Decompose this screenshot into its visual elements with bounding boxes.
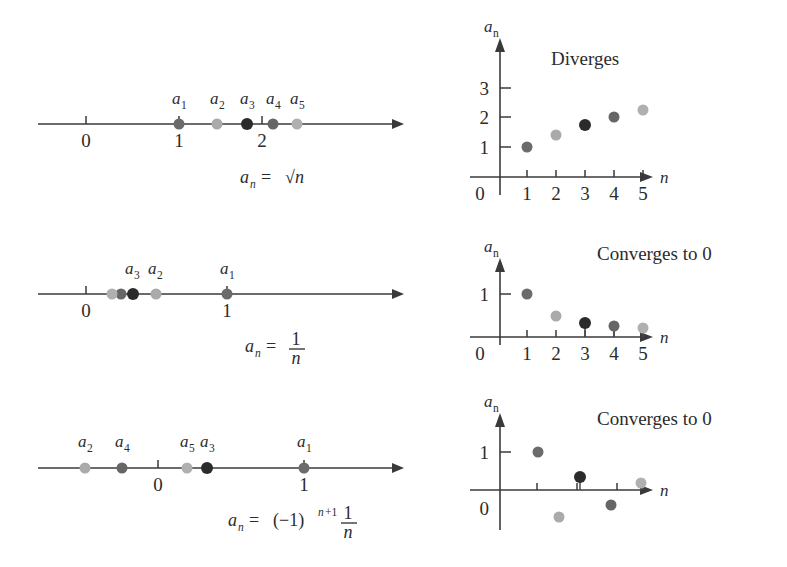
number-line-point-a1 xyxy=(299,463,310,474)
number-line-label-a3: a 3 xyxy=(240,89,255,111)
number-line-label-a1: a 1 xyxy=(220,259,235,281)
svg-text:a: a xyxy=(210,89,219,108)
number-line-label-a3: a 3 xyxy=(125,259,140,281)
chart3-point-5 xyxy=(636,478,647,489)
figure-canvas: 0 1 2 a 1 a 2 a 3 a 4 a 5 a xyxy=(0,0,787,567)
number-line-point-a3 xyxy=(201,462,213,474)
chart2-xlabel-1: 1 xyxy=(522,343,532,364)
formula-one-over-n: a n = 1 n xyxy=(245,329,305,368)
row-one-over-n-chart: a n n 1 0 1 2 3 4 5 Converges to 0 xyxy=(470,237,712,364)
number-line-point-a3 xyxy=(127,288,139,300)
number-line-point-a5 xyxy=(182,463,193,474)
svg-text:a: a xyxy=(115,432,124,451)
chart3-point-1 xyxy=(533,447,544,458)
row-alternating-chart: a n n 1 0 Converges to 0 xyxy=(470,392,712,530)
chart1-ylabel-1: 1 xyxy=(480,137,490,158)
chart1-point-4 xyxy=(609,112,620,123)
svg-text:5: 5 xyxy=(299,99,305,111)
svg-text:a: a xyxy=(297,432,306,451)
chart3-point-4 xyxy=(606,500,617,511)
svg-text:n: n xyxy=(493,247,499,259)
number-line-arrow xyxy=(392,289,404,299)
number-line-point-a1 xyxy=(222,289,233,300)
chart3-origin-label: 0 xyxy=(480,498,490,519)
chart1-xlabel-5: 5 xyxy=(638,183,648,204)
svg-text:n: n xyxy=(344,522,353,542)
chart3-caption: Converges to 0 xyxy=(597,408,712,429)
number-line-point-a4 xyxy=(268,119,279,130)
chart1-caption: Diverges xyxy=(551,48,619,69)
chart1-y-axis-label: a n xyxy=(484,17,499,39)
svg-text:4: 4 xyxy=(275,99,281,111)
svg-text:a: a xyxy=(484,237,493,256)
chart1-ylabel-3: 3 xyxy=(480,78,490,99)
svg-text:=: = xyxy=(261,167,271,187)
tick-label-0: 0 xyxy=(81,300,91,321)
chart1-origin-label: 0 xyxy=(475,183,485,204)
chart2-caption: Converges to 0 xyxy=(597,243,712,264)
svg-text:=: = xyxy=(249,510,259,530)
chart1-point-1 xyxy=(522,142,533,153)
number-line-arrow xyxy=(392,463,404,473)
chart2-x-arrow xyxy=(640,332,653,342)
chart3-point-3 xyxy=(574,471,586,483)
chart3-y-arrow xyxy=(495,413,505,427)
chart1-ylabel-2: 2 xyxy=(480,107,490,128)
svg-text:a: a xyxy=(200,432,209,451)
number-line-point-a2 xyxy=(212,119,223,130)
svg-text:5: 5 xyxy=(189,442,195,454)
row-alternating-numberline: 0 1 a 2 a 4 a 5 a 3 a 1 a n = xyxy=(38,432,404,542)
chart1-xlabel-1: 1 xyxy=(522,183,532,204)
number-line-label-a2: a 2 xyxy=(210,89,225,111)
svg-text:1: 1 xyxy=(306,442,312,454)
tick-label-1: 1 xyxy=(174,130,184,151)
chart2-point-3 xyxy=(579,317,591,329)
number-line-point-a1 xyxy=(174,119,185,130)
svg-text:=: = xyxy=(266,336,276,356)
chart2-y-arrow xyxy=(495,258,505,272)
number-line-point-a3 xyxy=(241,118,253,130)
svg-text:a: a xyxy=(484,17,493,36)
chart1-x-axis-label: n xyxy=(660,168,669,187)
svg-text:a: a xyxy=(148,259,157,278)
svg-text:n: n xyxy=(318,506,324,518)
chart2-ylabel-1: 1 xyxy=(480,284,490,305)
number-line-point-a5 xyxy=(292,119,303,130)
svg-text:4: 4 xyxy=(124,442,130,454)
svg-text:2: 2 xyxy=(219,99,225,111)
number-line-label-a1: a 1 xyxy=(297,432,312,454)
svg-text:(−1): (−1) xyxy=(273,510,304,531)
formula-sqrt-n: a n = √n xyxy=(240,167,304,190)
number-line-point-a2 xyxy=(151,289,162,300)
svg-text:1: 1 xyxy=(181,99,187,111)
formula-alternating: a n = (−1) n +1 1 n xyxy=(228,503,357,542)
svg-text:2: 2 xyxy=(157,269,163,281)
chart1-x-arrow xyxy=(640,172,653,182)
number-line-label-a2: a 2 xyxy=(148,259,163,281)
svg-text:a: a xyxy=(172,89,181,108)
chart2-xlabel-2: 2 xyxy=(551,343,561,364)
number-line-point-a2 xyxy=(80,463,91,474)
chart2-point-1 xyxy=(522,289,533,300)
number-line-label-a5: a 5 xyxy=(180,432,195,454)
svg-text:a: a xyxy=(180,432,189,451)
svg-text:a: a xyxy=(290,89,299,108)
tick-label-0: 0 xyxy=(153,474,163,495)
chart1-xlabel-3: 3 xyxy=(580,183,590,204)
number-line-label-a4: a 4 xyxy=(115,432,130,454)
tick-label-1: 1 xyxy=(222,300,232,321)
chart1-xlabel-2: 2 xyxy=(551,183,561,204)
number-line-label-a1: a 1 xyxy=(172,89,187,111)
sequences-figure: 0 1 2 a 1 a 2 a 3 a 4 a 5 a xyxy=(0,0,787,567)
svg-text:1: 1 xyxy=(344,503,353,523)
number-line-label-a4: a 4 xyxy=(266,89,281,111)
chart1-point-5 xyxy=(638,105,649,116)
chart2-xlabel-3: 3 xyxy=(580,343,590,364)
svg-text:n: n xyxy=(238,521,244,533)
chart2-xlabel-5: 5 xyxy=(638,343,648,364)
svg-text:1: 1 xyxy=(292,329,301,349)
svg-text:a: a xyxy=(245,336,254,356)
chart2-point-5 xyxy=(638,323,649,334)
chart2-y-axis-label: a n xyxy=(484,237,499,259)
chart2-xlabel-4: 4 xyxy=(609,343,619,364)
